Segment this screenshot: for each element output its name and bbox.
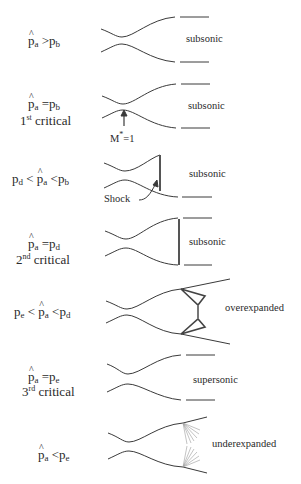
regime-label-row-1: subsonic [186,33,223,44]
critical-text: critical [35,113,71,128]
operator: < [52,447,59,462]
subscript: e [21,310,25,320]
regime-label-row-2: subsonic [188,100,225,111]
p-symbol: p [59,447,66,462]
subscript: b [56,102,61,112]
mach-value: =1 [123,133,134,144]
condition-row-3: pd < pa <pb [12,171,69,188]
operator: = [42,236,49,251]
critical-text: critical [34,252,70,267]
ordinal-suffix: rd [29,384,36,393]
p-symbol: p [49,369,56,384]
critical-label-row-4: 2nd critical [16,252,70,267]
p-hat-symbol: p [38,447,45,462]
ordinal-number: 1 [20,113,27,128]
operator: > [42,33,49,48]
subscript: d [56,242,61,252]
p-symbol: p [59,304,66,319]
condition-row-1: pa >pb [28,33,60,50]
regime-label-row-5: overexpanded [225,302,284,313]
p-hat-symbol: p [28,236,35,251]
subscript: a [43,177,47,187]
p-symbol: p [49,236,56,251]
regime-label-row-7: underexpanded [212,438,276,449]
expansion-fan [183,423,200,467]
shock-annotation: Shock [104,193,130,204]
critical-label-row-6: 3rd critical [22,384,75,399]
mach-number-annotation: M*=1 [110,130,135,144]
subscript: d [66,310,71,320]
subscript: b [64,177,69,187]
ordinal-number: 2 [16,252,23,267]
condition-row-7: pa <pe [38,447,70,464]
p-hat-symbol: p [28,369,35,384]
critical-label-row-2: 1st critical [20,113,71,128]
subscript: a [35,39,39,49]
operator: < [51,171,58,186]
operator: = [42,369,49,384]
p-hat-symbol: p [28,33,35,48]
ordinal-number: 3 [22,384,29,399]
operator: = [42,96,49,111]
ordinal-suffix: nd [23,252,31,261]
regime-label-row-3: subsonic [189,168,226,179]
p-symbol: p [49,33,56,48]
operator: < [28,304,35,319]
condition-row-2: pa =pb [28,96,60,113]
subscript: a [45,310,49,320]
p-hat-symbol: p [38,304,45,319]
mach-symbol: M [110,133,119,144]
regime-label-row-6: supersonic [193,374,238,385]
nozzle-row-5 [106,279,230,344]
condition-row-5: pe < pa <pd [14,304,70,321]
p-hat-symbol: p [28,96,35,111]
p-symbol: p [49,96,56,111]
p-symbol: p [14,304,21,319]
p-symbol: p [12,171,19,186]
subscript: a [35,102,39,112]
critical-text: critical [38,384,74,399]
regime-label-row-4: subsonic [189,236,226,247]
subscript: e [66,453,70,463]
subscript: d [19,177,24,187]
condition-row-4: pa =pd [28,236,60,253]
subscript: b [56,39,61,49]
ordinal-suffix: st [27,113,32,122]
subscript: a [35,242,39,252]
operator: < [26,171,33,186]
nozzle-row-7 [108,417,207,473]
subscript: a [45,453,49,463]
